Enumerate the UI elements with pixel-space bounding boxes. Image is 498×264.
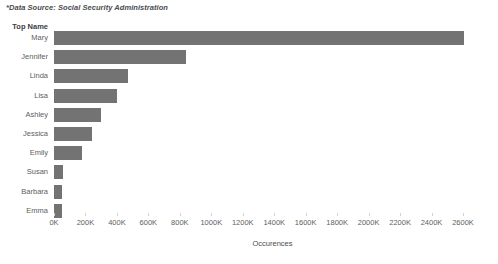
x-axis-tick-label: 800K bbox=[171, 218, 189, 227]
x-axis-tick-label: 2600K bbox=[452, 218, 474, 227]
x-axis-tick-label: 200K bbox=[77, 218, 95, 227]
data-source-note: *Data Source: Social Security Administra… bbox=[6, 3, 168, 12]
bar[interactable] bbox=[54, 69, 128, 83]
bar-category-label: Emma bbox=[26, 206, 48, 215]
bar[interactable] bbox=[54, 31, 464, 45]
x-axis-tick bbox=[400, 213, 401, 216]
bar[interactable] bbox=[54, 89, 117, 103]
bar-category-label: Susan bbox=[27, 167, 48, 176]
bar-category-label: Ashley bbox=[25, 110, 48, 119]
bar-row[interactable]: Lisa bbox=[54, 89, 117, 103]
bar-category-label: Mary bbox=[31, 33, 48, 42]
x-axis-tick-label: 1800K bbox=[326, 218, 348, 227]
x-axis-tick-label: 2400K bbox=[421, 218, 443, 227]
x-axis-tick bbox=[274, 213, 275, 216]
x-axis-tick bbox=[211, 213, 212, 216]
x-axis-tick bbox=[337, 213, 338, 216]
bar-category-label: Lisa bbox=[34, 91, 48, 100]
bar-row[interactable]: Jessica bbox=[54, 127, 92, 141]
x-axis-tick bbox=[463, 213, 464, 216]
bar-chart-root: *Data Source: Social Security Administra… bbox=[0, 0, 498, 264]
bar-category-label: Jessica bbox=[23, 129, 48, 138]
x-axis-title: Occurences bbox=[54, 239, 491, 248]
bar-row[interactable]: Emma bbox=[54, 204, 62, 218]
x-axis-tick bbox=[432, 213, 433, 216]
x-axis-tick-label: 1200K bbox=[232, 218, 254, 227]
y-axis-header: Top Name bbox=[0, 22, 48, 31]
bar-category-label: Linda bbox=[30, 71, 48, 80]
bar[interactable] bbox=[54, 50, 186, 64]
x-axis-tick-label: 0K bbox=[49, 218, 58, 227]
x-axis-tick bbox=[369, 213, 370, 216]
x-axis-tick bbox=[180, 213, 181, 216]
x-axis-tick bbox=[306, 213, 307, 216]
bar-row[interactable]: Susan bbox=[54, 165, 63, 179]
x-axis-tick-label: 1000K bbox=[200, 218, 222, 227]
bar-category-label: Jennifer bbox=[21, 52, 48, 61]
x-axis-tick bbox=[54, 213, 55, 216]
x-axis-tick-label: 1600K bbox=[295, 218, 317, 227]
bar-row[interactable]: Barbara bbox=[54, 185, 62, 199]
bar-row[interactable]: Ashley bbox=[54, 108, 101, 122]
bar-row[interactable]: Jennifer bbox=[54, 50, 186, 64]
bar-row[interactable]: Linda bbox=[54, 69, 128, 83]
x-axis-tick-label: 600K bbox=[140, 218, 158, 227]
bar[interactable] bbox=[54, 108, 101, 122]
bar[interactable] bbox=[54, 204, 62, 218]
x-axis-tick bbox=[85, 213, 86, 216]
x-axis-tick bbox=[148, 213, 149, 216]
bar-row[interactable]: Emily bbox=[54, 146, 82, 160]
bar-row[interactable]: Mary bbox=[54, 31, 464, 45]
bar[interactable] bbox=[54, 146, 82, 160]
x-axis: 0K200K400K600K800K1000K1200K1400K1600K18… bbox=[54, 213, 491, 214]
bar[interactable] bbox=[54, 127, 92, 141]
bar[interactable] bbox=[54, 165, 63, 179]
x-axis-tick-label: 400K bbox=[108, 218, 126, 227]
bar-category-label: Emily bbox=[30, 148, 48, 157]
bar[interactable] bbox=[54, 185, 62, 199]
plot-area: MaryJenniferLindaLisaAshleyJessicaEmilyS… bbox=[54, 31, 491, 213]
x-axis-tick bbox=[117, 213, 118, 216]
x-axis-tick-label: 2200K bbox=[389, 218, 411, 227]
bar-category-label: Barbara bbox=[21, 187, 48, 196]
x-axis-tick-label: 1400K bbox=[263, 218, 285, 227]
x-axis-tick bbox=[243, 213, 244, 216]
x-axis-tick-label: 2000K bbox=[358, 218, 380, 227]
